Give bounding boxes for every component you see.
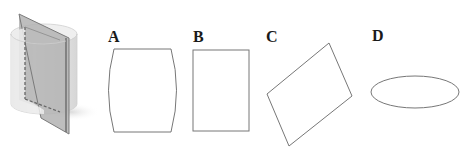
- option-d[interactable]: D: [371, 27, 459, 108]
- option-b-label: B: [193, 28, 204, 45]
- cylinder-with-plane: [11, 14, 100, 134]
- ellipse-shape: [371, 76, 459, 108]
- barrel-shape: [109, 49, 177, 132]
- parallelogram-shape: [267, 43, 352, 146]
- option-d-label: D: [372, 27, 384, 44]
- option-a-label: A: [108, 28, 120, 45]
- option-c-label: C: [266, 28, 278, 45]
- rectangle-shape: [193, 50, 249, 131]
- option-c[interactable]: C: [266, 28, 352, 146]
- figure-canvas: A B C D: [0, 0, 472, 155]
- option-a[interactable]: A: [108, 28, 177, 132]
- option-b[interactable]: B: [193, 28, 249, 131]
